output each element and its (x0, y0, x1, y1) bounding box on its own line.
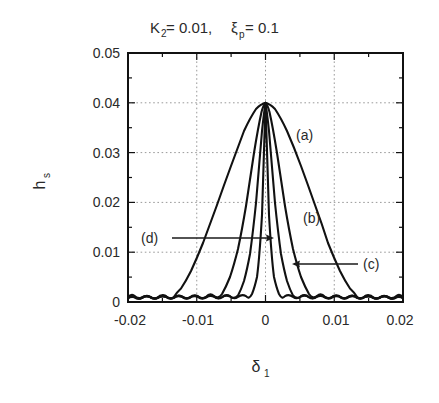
chart-figure: K 2 = 0.01, ξ p = 0.1 (0, 0, 439, 403)
xtick-label-0: 0 (262, 312, 270, 328)
y-axis-label-subscript: s (41, 173, 52, 178)
x-axis-label-subscript: 1 (264, 368, 270, 379)
title-k-value: = 0.01, (166, 19, 212, 36)
ytick-label-0: 0 (112, 294, 120, 310)
ytick-label-0.04: 0.04 (93, 95, 120, 111)
title-k-symbol: K (150, 19, 160, 36)
xtick-label-0.01: 0.01 (322, 312, 349, 328)
annotation-label-d: (d) (141, 230, 158, 246)
y-axis-label-symbol: h (31, 181, 48, 190)
ytick-label-0.03: 0.03 (93, 145, 120, 161)
chart-background (0, 0, 439, 403)
xtick-label--0.01: -0.01 (182, 312, 214, 328)
xtick-label-0.02: 0.02 (386, 312, 413, 328)
title-xi-value: = 0.1 (245, 19, 279, 36)
ytick-label-0.02: 0.02 (93, 194, 120, 210)
annotation-label-a: (a) (296, 127, 313, 143)
annotation-label-b: (b) (303, 210, 320, 226)
ytick-label-0.01: 0.01 (93, 244, 120, 260)
x-axis-label-symbol: δ (252, 358, 261, 375)
title-xi-symbol: ξ (231, 19, 238, 36)
sinc-curves-plot: K 2 = 0.01, ξ p = 0.1 (0, 0, 439, 403)
annotation-label-c: (c) (363, 256, 379, 272)
xtick-label--0.02: -0.02 (114, 312, 146, 328)
ytick-label-0.05: 0.05 (93, 45, 120, 61)
